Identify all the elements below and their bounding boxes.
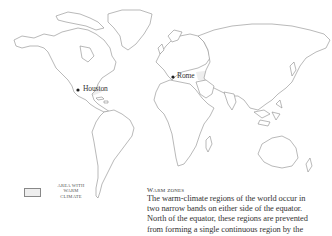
caption-line: The warm-climate regions of the world oc… xyxy=(147,194,332,204)
australia xyxy=(258,136,312,172)
rome-marker[interactable] xyxy=(171,75,174,78)
caption-line: two narrow bands on either side of the e… xyxy=(147,204,332,214)
city-label-houston: Houston xyxy=(83,85,108,93)
city-label-rome: Rome xyxy=(177,72,195,80)
caption-line: from forming a single continuous region … xyxy=(147,225,332,235)
caption-line: North of the equator, these regions are … xyxy=(147,214,332,224)
legend-label-line: CLIMATE xyxy=(55,194,87,199)
caption-title: Warm zones xyxy=(147,186,332,194)
caption: Warm zones The warm-climate regions of t… xyxy=(147,186,332,235)
legend-label: AREA WITH WARM CLIMATE xyxy=(55,183,87,199)
legend-swatch xyxy=(24,188,41,197)
houston-marker[interactable] xyxy=(76,88,79,91)
north-america xyxy=(14,10,152,112)
south-america xyxy=(92,110,134,198)
asia xyxy=(196,24,330,126)
